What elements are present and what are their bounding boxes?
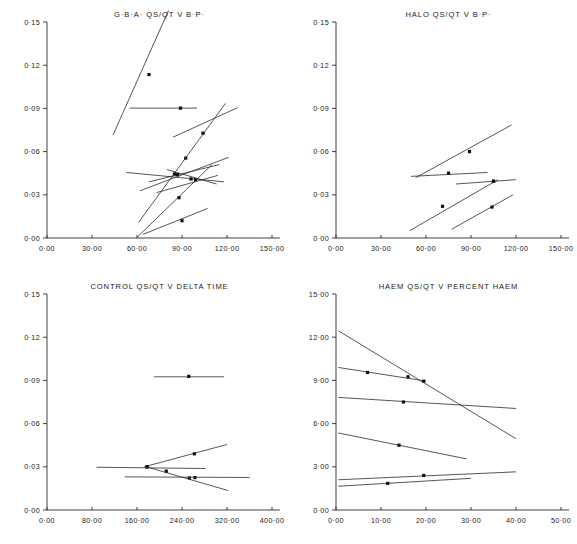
x-tick-label: 120·00	[504, 244, 528, 253]
plot-title: CONTROL QS/QT V DELTA TIME	[90, 282, 228, 291]
x-tick-label: 320·00	[215, 516, 239, 525]
y-tick-label: 0·15	[24, 290, 40, 299]
x-tick-label: 50·00	[551, 516, 571, 525]
x-tick-label: 10·00	[371, 516, 391, 525]
x-tick-label: 150·00	[260, 244, 284, 253]
regression-line	[338, 367, 426, 381]
regression-line	[410, 180, 499, 231]
x-tick-label: 0·00	[39, 516, 55, 525]
x-tick-label: 60·00	[416, 244, 436, 253]
data-point-marker	[179, 107, 182, 110]
data-point-marker	[468, 150, 471, 153]
y-tick-label: 6·00	[313, 419, 329, 428]
x-tick-label: 40·00	[506, 516, 526, 525]
y-tick-label: 0·12	[24, 333, 40, 342]
x-tick-label: 240·00	[170, 516, 194, 525]
data-point-marker	[180, 219, 183, 222]
regression-line	[416, 125, 512, 178]
chart-panel-haem: HAEM QS/QT V PERCENT HAEM0·003·006·009·0…	[289, 272, 577, 544]
plot-gba-qsqt-v-bp: G·B·A· QS/QT V B·P·0·000·030·060·090·120…	[0, 0, 288, 272]
y-tick-label: 0·09	[313, 104, 329, 113]
y-tick-label: 0·00	[24, 506, 40, 515]
x-tick-label: 160·00	[125, 516, 149, 525]
chart-panel-gba: G·B·A· QS/QT V B·P·0·000·030·060·090·120…	[0, 0, 288, 272]
plot-title: HAEM QS/QT V PERCENT HAEM	[379, 282, 519, 291]
y-tick-label: 0·00	[24, 234, 40, 243]
x-tick-label: 30·00	[82, 244, 102, 253]
y-tick-label: 0·03	[313, 190, 329, 199]
regression-line	[456, 180, 516, 184]
data-point-marker	[189, 177, 192, 180]
y-tick-label: 0·03	[24, 190, 40, 199]
plot-control-qsqt-v-delta-time: CONTROL QS/QT V DELTA TIME0·000·030·060·…	[0, 272, 288, 544]
y-tick-label: 3·00	[313, 462, 329, 471]
data-point-marker	[177, 196, 180, 199]
y-tick-label: 0·00	[313, 234, 329, 243]
data-point-marker	[441, 205, 444, 208]
x-tick-label: 20·00	[416, 516, 436, 525]
data-point-marker	[402, 400, 405, 403]
plot-halo-qsqt-v-bp: HALO QS/QT V B·P·0·000·030·060·090·120·1…	[289, 0, 577, 272]
y-tick-label: 0·03	[24, 462, 40, 471]
regression-line	[125, 477, 250, 478]
regression-line	[139, 103, 226, 222]
y-tick-label: 0·00	[313, 506, 329, 515]
plot-title: HALO QS/QT V B·P·	[405, 10, 491, 19]
regression-line	[143, 208, 208, 234]
y-tick-label: 0·09	[24, 104, 40, 113]
regression-line	[140, 157, 229, 190]
data-point-marker	[492, 180, 495, 183]
data-point-marker	[386, 482, 389, 485]
regression-line	[338, 331, 516, 439]
y-tick-label: 9·00	[313, 376, 329, 385]
y-tick-label: 0·15	[24, 18, 40, 27]
plot-haem-qsqt-v-percent-haem: HAEM QS/QT V PERCENT HAEM0·003·006·009·0…	[289, 272, 577, 544]
y-tick-label: 15·00	[309, 290, 329, 299]
regression-line	[113, 10, 169, 135]
figure-canvas: G·B·A· QS/QT V B·P·0·000·030·060·090·120…	[0, 0, 577, 544]
regression-line	[338, 433, 466, 459]
y-tick-label: 0·06	[24, 419, 40, 428]
y-tick-label: 0·12	[313, 61, 329, 70]
y-tick-label: 0·06	[24, 147, 40, 156]
data-point-marker	[147, 73, 150, 76]
data-point-marker	[193, 452, 196, 455]
data-point-marker	[490, 205, 493, 208]
data-point-marker	[165, 470, 168, 473]
chart-panel-control: CONTROL QS/QT V DELTA TIME0·000·030·060·…	[0, 272, 288, 544]
regression-line	[173, 108, 238, 138]
y-tick-label: 12·00	[309, 333, 329, 342]
x-tick-label: 0·00	[39, 244, 55, 253]
x-tick-label: 80·00	[82, 516, 102, 525]
plot-title: G·B·A· QS/QT V B·P·	[114, 10, 205, 19]
regression-line	[145, 466, 228, 490]
x-tick-label: 60·00	[127, 244, 147, 253]
x-tick-label: 0·00	[328, 244, 344, 253]
data-point-marker	[366, 371, 369, 374]
data-point-marker	[447, 172, 450, 175]
chart-panel-halo: HALO QS/QT V B·P·0·000·030·060·090·120·1…	[289, 0, 577, 272]
regression-line	[144, 444, 227, 466]
x-tick-label: 400·00	[260, 516, 284, 525]
data-point-marker	[187, 375, 190, 378]
data-point-marker	[184, 156, 187, 159]
data-point-marker	[397, 444, 400, 447]
y-tick-label: 0·15	[313, 18, 329, 27]
data-point-marker	[201, 132, 204, 135]
regression-line	[338, 478, 471, 486]
y-tick-label: 0·12	[24, 61, 40, 70]
x-tick-label: 120·00	[215, 244, 239, 253]
x-tick-label: 0·00	[328, 516, 344, 525]
x-tick-label: 90·00	[461, 244, 481, 253]
data-point-marker	[422, 380, 425, 383]
y-tick-label: 0·09	[24, 376, 40, 385]
data-point-marker	[422, 474, 425, 477]
x-tick-label: 90·00	[172, 244, 192, 253]
regression-line	[338, 472, 516, 480]
data-point-marker	[176, 173, 179, 176]
regression-line	[338, 397, 516, 408]
regression-line	[452, 195, 514, 230]
x-tick-label: 150·00	[549, 244, 573, 253]
x-tick-label: 30·00	[461, 516, 481, 525]
y-tick-label: 0·06	[313, 147, 329, 156]
